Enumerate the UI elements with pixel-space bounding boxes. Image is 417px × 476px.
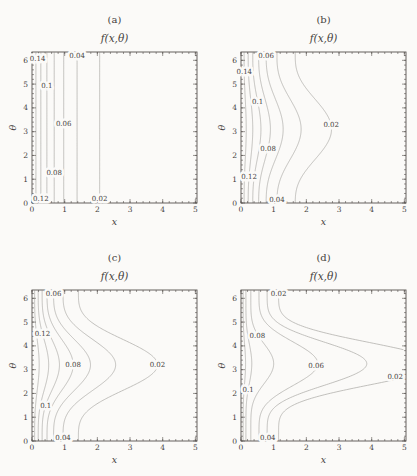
svg-text:1: 1	[271, 443, 276, 452]
svg-text:x: x	[321, 454, 327, 465]
svg-text:4: 4	[232, 341, 237, 350]
svg-text:4: 4	[369, 205, 374, 214]
svg-text:0.04: 0.04	[269, 196, 285, 204]
svg-text:2: 2	[95, 205, 100, 214]
svg-text:0.02: 0.02	[271, 290, 287, 298]
svg-text:0.1: 0.1	[243, 386, 254, 394]
svg-text:4: 4	[232, 103, 237, 112]
figure-page: (a) f(x,θ) 01234501234560.140.040.10.060…	[0, 0, 417, 476]
svg-text:1: 1	[271, 205, 276, 214]
svg-text:0.02: 0.02	[150, 361, 166, 369]
svg-text:2: 2	[23, 151, 28, 160]
svg-text:5: 5	[193, 205, 198, 214]
svg-text:0.14: 0.14	[30, 55, 46, 63]
svg-text:0.08: 0.08	[65, 361, 81, 369]
svg-text:θ: θ	[216, 362, 227, 368]
svg-text:5: 5	[232, 318, 237, 327]
svg-text:1: 1	[23, 413, 28, 422]
svg-text:0: 0	[239, 443, 244, 452]
svg-text:1: 1	[62, 205, 67, 214]
svg-text:1: 1	[232, 175, 237, 184]
svg-text:6: 6	[23, 294, 28, 303]
svg-text:0.1: 0.1	[40, 402, 51, 410]
contour-plot-c: 01234501234560.060.120.080.020.10.04xθ	[0, 238, 209, 476]
svg-text:0: 0	[239, 205, 244, 214]
svg-text:4: 4	[369, 443, 374, 452]
svg-text:0.08: 0.08	[46, 169, 62, 177]
svg-text:2: 2	[23, 389, 28, 398]
subplot-a: (a) f(x,θ) 01234501234560.140.040.10.060…	[0, 0, 209, 238]
svg-text:3: 3	[337, 205, 342, 214]
subplot-d: (d) f(x,θ) 01234501234560.020.080.060.10…	[209, 238, 417, 476]
svg-text:3: 3	[232, 365, 237, 374]
svg-text:2: 2	[232, 151, 237, 160]
svg-text:0.12: 0.12	[33, 195, 49, 203]
svg-text:x: x	[321, 216, 327, 227]
svg-text:2: 2	[304, 443, 309, 452]
svg-text:4: 4	[160, 443, 165, 452]
svg-text:0.1: 0.1	[41, 82, 52, 90]
svg-text:0.06: 0.06	[56, 120, 72, 128]
svg-text:2: 2	[304, 205, 309, 214]
svg-text:0.04: 0.04	[69, 52, 85, 60]
svg-text:3: 3	[23, 127, 28, 136]
svg-text:0: 0	[23, 437, 28, 446]
svg-text:0.1: 0.1	[252, 98, 263, 106]
svg-text:4: 4	[23, 341, 28, 350]
svg-text:6: 6	[23, 56, 28, 65]
svg-text:x: x	[112, 216, 118, 227]
svg-text:0.02: 0.02	[92, 195, 108, 203]
svg-text:5: 5	[193, 443, 198, 452]
svg-text:0: 0	[232, 199, 237, 208]
contour-plot-a: 01234501234560.140.040.10.060.080.120.02…	[0, 0, 209, 238]
svg-text:4: 4	[23, 103, 28, 112]
svg-text:θ: θ	[7, 124, 18, 130]
svg-text:5: 5	[402, 205, 407, 214]
svg-text:0.04: 0.04	[55, 434, 71, 442]
svg-text:2: 2	[232, 389, 237, 398]
svg-text:1: 1	[62, 443, 67, 452]
svg-text:4: 4	[160, 205, 165, 214]
svg-text:0.12: 0.12	[241, 173, 257, 181]
svg-text:0.14: 0.14	[236, 68, 252, 76]
svg-text:5: 5	[23, 80, 28, 89]
svg-text:5: 5	[402, 443, 407, 452]
svg-text:0.12: 0.12	[35, 330, 51, 338]
contour-plot-b: 01234501234560.060.140.10.020.080.120.04…	[209, 0, 417, 238]
svg-text:6: 6	[232, 294, 237, 303]
svg-text:0: 0	[232, 437, 237, 446]
svg-text:0.06: 0.06	[308, 362, 324, 370]
svg-text:3: 3	[128, 205, 133, 214]
svg-text:5: 5	[23, 318, 28, 327]
svg-text:0: 0	[30, 205, 35, 214]
svg-text:0.02: 0.02	[387, 373, 403, 381]
svg-text:θ: θ	[216, 124, 227, 130]
svg-text:3: 3	[232, 127, 237, 136]
subplot-c: (c) f(x,θ) 01234501234560.060.120.080.02…	[0, 238, 209, 476]
svg-text:1: 1	[232, 413, 237, 422]
svg-text:3: 3	[23, 365, 28, 374]
svg-text:0.08: 0.08	[250, 332, 266, 340]
svg-text:x: x	[112, 454, 118, 465]
subplot-b: (b) f(x,θ) 01234501234560.060.140.10.020…	[209, 0, 417, 238]
svg-text:0.04: 0.04	[260, 434, 276, 442]
svg-text:0: 0	[23, 199, 28, 208]
svg-text:3: 3	[337, 443, 342, 452]
svg-text:0.08: 0.08	[260, 145, 276, 153]
svg-text:0.06: 0.06	[258, 52, 274, 60]
svg-text:5: 5	[232, 80, 237, 89]
svg-text:θ: θ	[7, 362, 18, 368]
svg-text:2: 2	[95, 443, 100, 452]
svg-text:6: 6	[232, 56, 237, 65]
svg-text:3: 3	[128, 443, 133, 452]
svg-text:0.02: 0.02	[323, 121, 339, 129]
svg-text:0: 0	[30, 443, 35, 452]
contour-plot-d: 01234501234560.020.080.060.10.020.04xθ	[209, 238, 417, 476]
svg-text:0.06: 0.06	[46, 290, 62, 298]
svg-text:1: 1	[23, 175, 28, 184]
